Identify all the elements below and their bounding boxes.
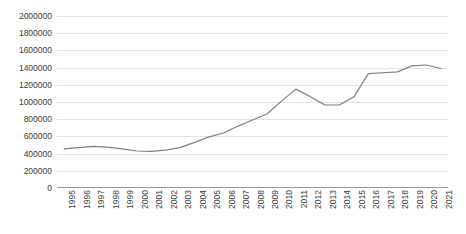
y-axis-labels: 0200000400000600000800000100000012000001… xyxy=(0,0,52,234)
line-chart: 0200000400000600000800000100000012000001… xyxy=(0,0,466,234)
y-axis-tick-label: 2000000 xyxy=(19,12,52,20)
x-axis-tick-label: 2012 xyxy=(314,190,323,209)
x-axis-tick-label: 2018 xyxy=(401,190,410,209)
y-axis-tick-label: 800000 xyxy=(24,115,52,123)
y-axis-tick-label: 1400000 xyxy=(19,64,52,72)
x-axis-tick-label: 2017 xyxy=(387,190,396,209)
x-axis-tick-label: 2008 xyxy=(257,190,266,209)
y-axis-tick-label: 1000000 xyxy=(19,98,52,106)
x-axis-tick-label: 2009 xyxy=(271,190,280,209)
x-axis-tick-label: 1996 xyxy=(83,190,92,209)
x-axis-tick-label: 2002 xyxy=(170,190,179,209)
x-axis-tick-label: 2010 xyxy=(285,190,294,209)
y-axis-tick-label: 200000 xyxy=(24,167,52,175)
data-line-1 xyxy=(64,65,441,151)
x-axis-tick-label: 2000 xyxy=(141,190,150,209)
series-layer xyxy=(57,16,448,188)
x-axis-tick-label: 2016 xyxy=(372,190,381,209)
x-axis-tick-label: 1997 xyxy=(97,190,106,209)
x-axis-tick-label: 1998 xyxy=(112,190,121,209)
x-axis-tick-label: 2013 xyxy=(329,190,338,209)
x-axis-labels: 1995199619971998199920002001200220032004… xyxy=(57,190,448,234)
x-axis-tick-label: 2005 xyxy=(213,190,222,209)
y-axis-tick-label: 600000 xyxy=(24,132,52,140)
x-axis-tick-label: 1999 xyxy=(126,190,135,209)
x-axis-tick-label: 2014 xyxy=(343,190,352,209)
x-axis-tick-label: 2015 xyxy=(358,190,367,209)
plot-area xyxy=(57,16,448,188)
x-axis-tick-label: 2019 xyxy=(416,190,425,209)
x-axis-tick-label: 2011 xyxy=(300,190,309,208)
x-axis-tick-label: 2004 xyxy=(199,190,208,209)
x-axis-tick-label: 2007 xyxy=(242,190,251,209)
y-axis-tick-label: 1800000 xyxy=(19,29,52,37)
y-axis-tick-label: 0 xyxy=(47,184,52,192)
x-axis-tick-label: 2021 xyxy=(445,190,454,209)
y-axis-tick-label: 400000 xyxy=(24,150,52,158)
x-axis-tick-label: 2001 xyxy=(155,190,164,209)
x-axis-tick-label: 2006 xyxy=(228,190,237,209)
x-axis-tick-label: 1995 xyxy=(68,190,77,209)
y-axis-tick-label: 1600000 xyxy=(19,46,52,54)
x-axis-tick-label: 2020 xyxy=(430,190,439,209)
y-axis-tick-label: 1200000 xyxy=(19,81,52,89)
x-axis-tick-label: 2003 xyxy=(184,190,193,209)
